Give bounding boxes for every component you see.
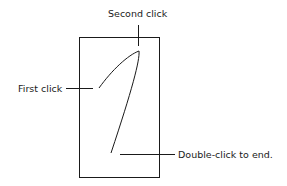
double-click-label: Double-click to end. [178,150,273,160]
drawing-area-frame [80,38,160,178]
freeform-curve [99,51,139,153]
first-click-label: First click [18,84,62,94]
second-click-label: Second click [108,9,167,19]
